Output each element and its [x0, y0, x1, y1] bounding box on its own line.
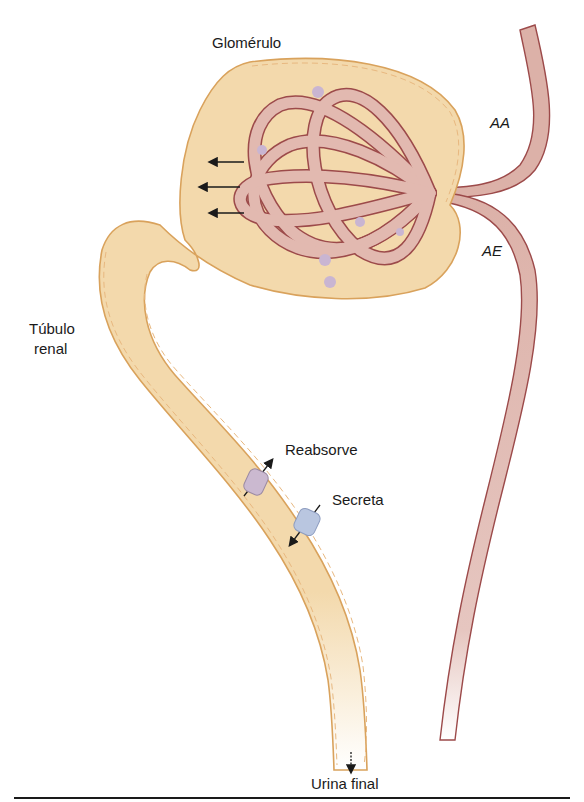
reabsorb-label: Reabsorve	[285, 441, 358, 459]
renal-tubule-label-line2: renal	[34, 340, 67, 358]
efferent-arteriole-label: AE	[482, 242, 502, 260]
efferent-arteriole	[430, 192, 537, 740]
secrete-label: Secreta	[332, 491, 384, 509]
bottom-rule	[14, 797, 570, 799]
renal-tubule-label-line1: Túbulo	[29, 320, 75, 338]
afferent-arteriole-label: AA	[490, 114, 510, 132]
final-urine-label: Urina final	[311, 775, 379, 793]
glomerulus-label: Glomérulo	[212, 34, 281, 52]
